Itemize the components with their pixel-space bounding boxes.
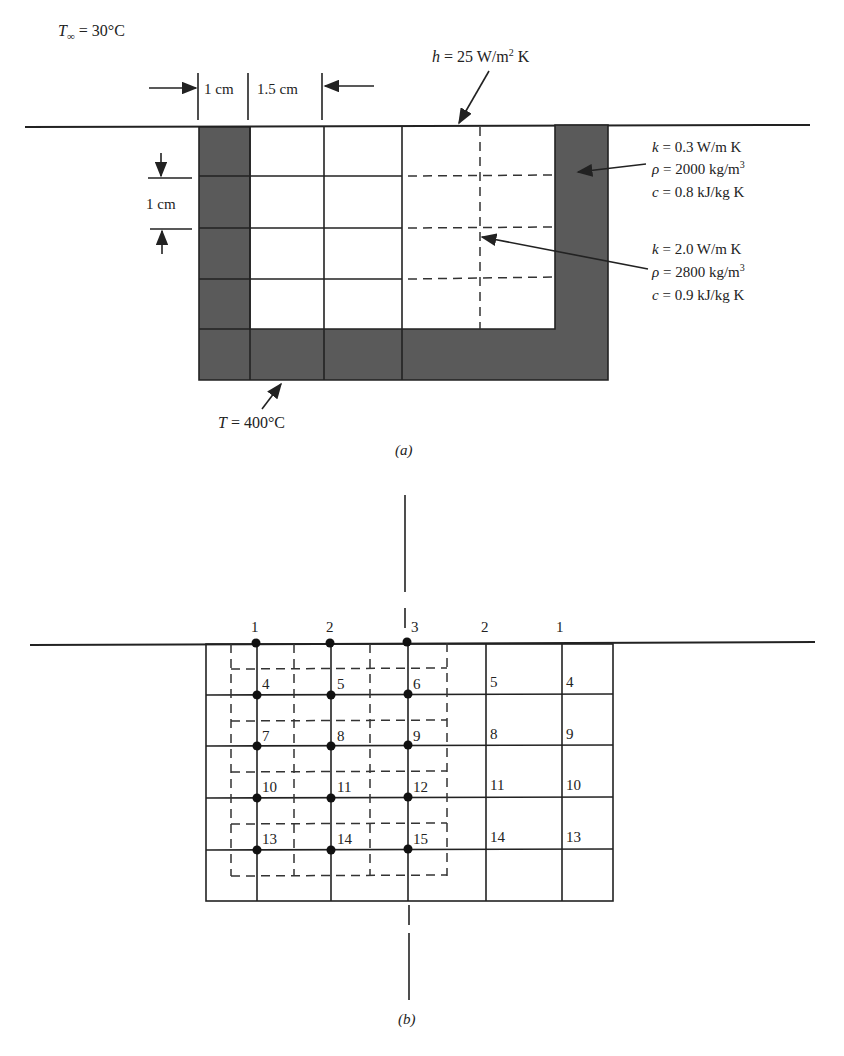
svg-text:5: 5 xyxy=(337,676,345,692)
base-temperature-label: T = 400°C xyxy=(218,414,285,431)
svg-text:11: 11 xyxy=(337,779,351,795)
svg-text:13: 13 xyxy=(262,831,277,847)
ambient-temperature-label: T∞ = 30°C xyxy=(58,22,125,42)
svg-text:2: 2 xyxy=(326,619,334,635)
svg-text:3: 3 xyxy=(411,619,419,635)
svg-text:k = 0.3 W/m K: k = 0.3 W/m K xyxy=(652,139,742,155)
svg-text:11: 11 xyxy=(490,777,504,793)
width-dimension: 1 cm 1.5 cm xyxy=(149,73,374,120)
outer-material-region xyxy=(199,125,608,380)
svg-text:4: 4 xyxy=(262,676,270,692)
svg-text:k = 2.0 W/m K: k = 2.0 W/m K xyxy=(652,241,742,257)
svg-text:ρ = 2800 kg/m3: ρ = 2800 kg/m3 xyxy=(651,262,745,280)
base-temperature-arrow xyxy=(262,384,281,409)
svg-text:c = 0.8 kJ/kg K: c = 0.8 kJ/kg K xyxy=(652,184,744,200)
part-b-caption: (b) xyxy=(398,1011,416,1028)
part-b-diagram: 1 2 3 2 1 4 5 6 7 8 9 10 11 12 13 14 15 … xyxy=(30,495,815,1028)
svg-text:1: 1 xyxy=(556,619,564,635)
svg-text:15: 15 xyxy=(413,831,428,847)
svg-text:13: 13 xyxy=(566,829,581,845)
part-a-caption: (a) xyxy=(395,442,413,459)
right-cell-labels: 5 4 8 9 11 10 14 13 xyxy=(490,674,581,845)
svg-text:14: 14 xyxy=(490,829,506,845)
left-cell-labels: 4 5 6 7 8 9 10 11 12 13 14 15 xyxy=(262,676,428,847)
figure-canvas: T∞ = 30°C h = 25 W/m2 K xyxy=(0,0,844,1056)
convection-arrow xyxy=(459,71,489,123)
top-node-labels: 1 2 3 2 1 xyxy=(251,619,564,635)
svg-text:1: 1 xyxy=(251,619,259,635)
svg-text:12: 12 xyxy=(413,779,428,795)
convection-coefficient-label: h = 25 W/m2 K xyxy=(432,47,530,65)
svg-text:9: 9 xyxy=(566,726,574,742)
surface-line-a xyxy=(25,125,810,127)
svg-text:5: 5 xyxy=(490,674,498,690)
height-dimension: 1 cm xyxy=(146,153,192,254)
svg-text:9: 9 xyxy=(413,728,421,744)
inner-material-properties: k = 2.0 W/m K ρ = 2800 kg/m3 c = 0.9 kJ/… xyxy=(482,237,745,303)
svg-text:ρ = 2000 kg/m3: ρ = 2000 kg/m3 xyxy=(651,159,745,177)
svg-text:c = 0.9 kJ/kg K: c = 0.9 kJ/kg K xyxy=(652,287,744,303)
cell-width-dimension-label: 1.5 cm xyxy=(257,81,298,97)
cell-height-dimension-label: 1 cm xyxy=(146,196,176,212)
svg-text:7: 7 xyxy=(262,728,270,744)
svg-text:10: 10 xyxy=(566,777,581,793)
svg-text:4: 4 xyxy=(566,674,574,690)
svg-text:6: 6 xyxy=(413,676,421,692)
svg-text:2: 2 xyxy=(481,619,489,635)
part-a-diagram: T∞ = 30°C h = 25 W/m2 K xyxy=(25,22,810,459)
svg-text:8: 8 xyxy=(490,726,498,742)
svg-text:14: 14 xyxy=(337,831,353,847)
svg-text:10: 10 xyxy=(262,779,277,795)
svg-text:8: 8 xyxy=(337,728,345,744)
wall-width-dimension-label: 1 cm xyxy=(204,81,234,97)
